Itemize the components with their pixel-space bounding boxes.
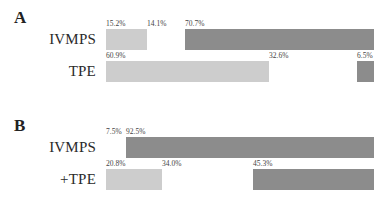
bar-segment-blank [106,137,126,158]
row-label: TPE [6,63,96,80]
bar-track: 20.8%34.0%45.3% [106,169,374,190]
segment-value-label: 70.7% [185,19,204,28]
panel-letter: B [14,116,25,136]
segment-value-label: 92.5% [126,127,145,136]
segment-value-label: 45.3% [253,159,272,168]
bar-track: 7.5%92.5% [106,137,374,158]
bar-segment-light [106,61,269,82]
row-label: IVMPS [6,139,96,156]
bar-track: 15.2%14.1%70.7% [106,29,374,50]
segment-value-label: 34.0% [162,159,181,168]
bar-segment-light [106,169,162,190]
segment-value-label: 15.2% [106,19,125,28]
bar-segment-dark [253,169,374,190]
bar-segment-blank [162,169,253,190]
segment-value-label: 20.8% [106,159,125,168]
bar-segment-light [106,29,147,50]
bar-segment-dark [126,137,374,158]
segment-value-label: 7.5% [106,127,122,136]
panel-letter: A [14,8,26,28]
segment-value-label: 14.1% [147,19,166,28]
segment-value-label: 6.5% [357,51,373,60]
segment-value-label: 60.9% [106,51,125,60]
segment-value-label: 32.6% [269,51,288,60]
row-label: IVMPS [6,31,96,48]
bar-segment-dark [357,61,374,82]
bar-segment-dark [185,29,374,50]
bar-track: 60.9%32.6%6.5% [106,61,374,82]
bar-segment-blank [147,29,185,50]
bar-segment-blank [269,61,357,82]
row-label: +TPE [6,171,96,188]
